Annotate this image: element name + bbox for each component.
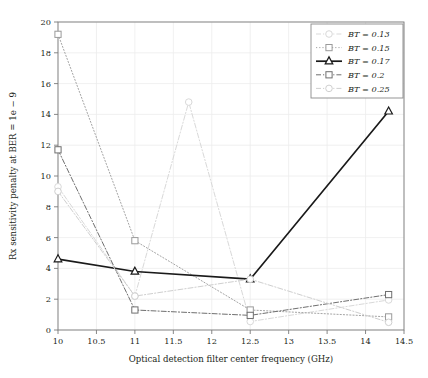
y-tick-label: 12 xyxy=(41,140,51,150)
data-point-marker-circle xyxy=(185,99,192,106)
x-tick-label: 11.5 xyxy=(164,336,182,346)
y-tick-label: 18 xyxy=(41,48,51,58)
data-point-marker-circle xyxy=(326,85,333,92)
y-tick-label: 10 xyxy=(41,171,51,181)
data-point-marker-square xyxy=(247,312,253,318)
chart-legend: BT = 0.13BT = 0.15BT = 0.17BT = 0.2BT = … xyxy=(311,24,403,98)
data-point-marker-circle xyxy=(326,31,333,38)
legend-label: BT = 0.17 xyxy=(347,56,391,66)
x-tick-label: 10 xyxy=(53,336,63,346)
legend-label: BT = 0.25 xyxy=(347,84,390,94)
data-point-marker-circle xyxy=(247,276,254,283)
series-bt-0-13 xyxy=(55,99,392,325)
data-point-marker-square xyxy=(132,307,138,313)
x-tick-label: 14.5 xyxy=(395,336,413,346)
y-tick-label: 4 xyxy=(46,263,51,273)
x-tick-label: 12 xyxy=(207,336,217,346)
data-point-marker-square xyxy=(132,238,138,244)
data-point-marker-triangle xyxy=(54,255,62,262)
data-point-marker-triangle xyxy=(385,107,393,114)
x-tick-label: 13.5 xyxy=(318,336,336,346)
series-line xyxy=(58,102,389,321)
data-point-marker-square xyxy=(55,31,61,37)
y-tick-label: 2 xyxy=(46,294,51,304)
data-point-marker-circle xyxy=(55,188,62,195)
data-point-marker-square xyxy=(55,147,61,153)
chart-svg: 1010.51111.51212.51313.51414.50246810121… xyxy=(0,0,428,378)
series-bt-0-2 xyxy=(55,147,392,319)
data-point-marker-circle xyxy=(385,319,392,326)
y-tick-label: 14 xyxy=(41,109,51,119)
x-tick-label: 12.5 xyxy=(241,336,259,346)
legend-label: BT = 0.15 xyxy=(347,43,390,53)
y-tick-label: 8 xyxy=(46,202,51,212)
y-tick-label: 6 xyxy=(46,233,51,243)
x-axis-title: Optical detection filter center frequenc… xyxy=(129,354,333,364)
legend-label: BT = 0.2 xyxy=(347,70,385,80)
data-point-marker-circle xyxy=(132,293,139,300)
data-point-marker-square xyxy=(326,72,332,78)
y-tick-label: 20 xyxy=(41,17,51,27)
data-point-marker-circle xyxy=(247,318,254,325)
y-tick-label: 0 xyxy=(46,325,51,335)
series-line xyxy=(58,150,389,316)
axis-titles: Optical detection filter center frequenc… xyxy=(8,92,333,364)
chart-figure: 1010.51111.51212.51313.51414.50246810121… xyxy=(0,0,428,378)
y-axis-title: Rx sensitivity penalty at BER = 1e − 9 xyxy=(8,92,18,260)
data-point-marker-square xyxy=(326,45,332,51)
x-tick-label: 14 xyxy=(360,336,370,346)
x-tick-label: 11 xyxy=(130,336,140,346)
data-point-marker-square xyxy=(386,291,392,297)
x-tick-label: 10.5 xyxy=(87,336,105,346)
x-tick-label: 13 xyxy=(283,336,293,346)
legend-label: BT = 0.13 xyxy=(347,29,390,39)
y-tick-label: 16 xyxy=(41,79,51,89)
series-bt-0-25 xyxy=(55,188,392,326)
